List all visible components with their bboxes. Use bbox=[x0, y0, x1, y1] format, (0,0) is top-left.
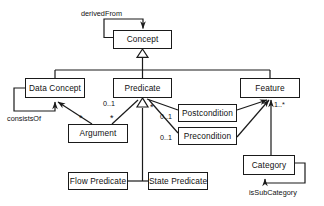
class-label-argument: Argument bbox=[80, 129, 117, 137]
class-box-precondition[interactable]: Precondition bbox=[178, 127, 237, 145]
class-box-concept[interactable]: Concept bbox=[113, 30, 172, 49]
multiplicity-argument-predicate: * bbox=[110, 114, 114, 123]
multiplicity-predicate-postcondition: * bbox=[150, 103, 154, 112]
multiplicity-feature-category: 1..* bbox=[274, 101, 285, 108]
class-label-precondition: Precondition bbox=[184, 132, 231, 140]
class-label-category: Category bbox=[252, 161, 286, 169]
class-box-data-concept[interactable]: Data Concept bbox=[25, 78, 85, 98]
class-box-category[interactable]: Category bbox=[243, 155, 295, 175]
multiplicity-predicate-argument: 0..1 bbox=[103, 100, 115, 107]
class-box-predicate[interactable]: Predicate bbox=[113, 78, 172, 98]
connector-generalization-predicate bbox=[128, 98, 148, 181]
association-label-consists-of: consistsOf bbox=[7, 115, 41, 122]
connector-argument-data-concept bbox=[58, 102, 92, 124]
class-label-state-predicate: State Predicate bbox=[149, 177, 207, 185]
class-label-postcondition: Postcondition bbox=[182, 109, 233, 117]
class-box-postcondition[interactable]: Postcondition bbox=[178, 104, 237, 122]
multiplicity-postcondition-predicate: 0..1 bbox=[160, 113, 172, 120]
connector-postcondition-feature bbox=[237, 100, 267, 110]
class-box-feature[interactable]: Feature bbox=[240, 78, 300, 98]
class-label-feature: Feature bbox=[255, 84, 284, 92]
multiplicity-argument-data-concept: * bbox=[79, 114, 83, 123]
uml-class-diagram: Concept Data Concept Predicate Feature P… bbox=[0, 0, 324, 206]
connector-generalization-concept bbox=[55, 49, 270, 78]
class-label-concept: Concept bbox=[127, 35, 159, 43]
class-label-flow-predicate: Flow Predicate bbox=[70, 177, 126, 185]
class-box-state-predicate[interactable]: State Predicate bbox=[148, 172, 208, 190]
connector-argument-predicate bbox=[112, 100, 138, 124]
association-label-is-sub-category: isSubCategory bbox=[249, 189, 297, 196]
class-box-flow-predicate[interactable]: Flow Predicate bbox=[68, 172, 128, 190]
association-label-derived-from: derivedFrom bbox=[81, 10, 122, 17]
class-label-data-concept: Data Concept bbox=[29, 84, 81, 92]
class-box-argument[interactable]: Argument bbox=[68, 124, 128, 143]
class-label-predicate: Predicate bbox=[125, 84, 161, 92]
connector-precondition-feature bbox=[237, 100, 269, 137]
multiplicity-precondition-predicate: 0..1 bbox=[160, 134, 172, 141]
